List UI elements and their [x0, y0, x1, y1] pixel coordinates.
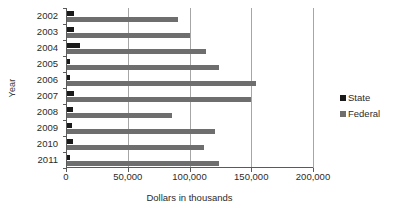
legend-item-federal[interactable]: Federal [340, 108, 380, 119]
y-axis-tick-label: 2005 [20, 56, 62, 72]
x-axis-title: Dollars in thousands [66, 192, 313, 203]
y-axis-tick-label: 2011 [20, 152, 62, 168]
bar-group [66, 120, 313, 136]
legend-label: Federal [348, 108, 380, 119]
bar-chart: Year 20022003200420052006200720082009201… [0, 0, 397, 220]
bar-federal-2002 [66, 17, 178, 22]
y-axis-tick-label: 2008 [20, 104, 62, 120]
bar-federal-2003 [66, 33, 190, 38]
legend-swatch-icon [340, 111, 346, 117]
y-axis-tick-label: 2006 [20, 72, 62, 88]
bar-state-2004 [66, 43, 80, 48]
bar-group [66, 56, 313, 72]
bar-group [66, 136, 313, 152]
bar-federal-2010 [66, 145, 204, 150]
y-axis-tick-label: 2003 [20, 24, 62, 40]
bar-federal-2009 [66, 129, 215, 134]
legend-swatch-icon [340, 95, 346, 101]
bar-group [66, 8, 313, 24]
y-axis-tick-label: 2004 [20, 40, 62, 56]
bar-federal-2004 [66, 49, 206, 54]
y-axis-title: Year [2, 0, 20, 175]
bar-group [66, 152, 313, 168]
y-axis-tick-labels: 2002200320042005200620072008200920102011 [20, 8, 62, 168]
bar-federal-2008 [66, 113, 172, 118]
plot-area [66, 8, 313, 168]
bar-state-2002 [66, 11, 74, 16]
bar-federal-2005 [66, 65, 219, 70]
bar-group [66, 72, 313, 88]
bar-group [66, 104, 313, 120]
bar-group [66, 24, 313, 40]
gridline [313, 8, 314, 168]
bar-federal-2011 [66, 161, 219, 166]
y-axis-tick-label: 2010 [20, 136, 62, 152]
chart-legend: StateFederal [340, 92, 380, 119]
bar-state-2008 [66, 107, 73, 112]
bar-groups [66, 8, 313, 168]
legend-item-state[interactable]: State [340, 92, 380, 103]
y-axis-tick-label: 2007 [20, 88, 62, 104]
bar-federal-2006 [66, 81, 256, 86]
x-axis-tick-label: 100,000 [172, 172, 206, 182]
bar-state-2010 [66, 139, 73, 144]
y-axis-title-text: Year [6, 78, 16, 97]
x-axis-tick-label: 50,000 [113, 172, 142, 182]
bar-group [66, 88, 313, 104]
x-axis-tick-label: 200,000 [296, 172, 330, 182]
bar-federal-2007 [66, 97, 251, 102]
bar-state-2003 [66, 27, 74, 32]
y-axis-tick-label: 2002 [20, 8, 62, 24]
x-axis-tick-label: 0 [63, 172, 68, 182]
x-axis-tick-label: 150,000 [234, 172, 268, 182]
x-axis-tick-labels: 050,000100,000150,000200,000 [0, 172, 397, 186]
y-axis-line [66, 8, 67, 168]
bar-group [66, 40, 313, 56]
y-axis-tick-label: 2009 [20, 120, 62, 136]
bar-state-2007 [66, 91, 74, 96]
legend-label: State [348, 92, 370, 103]
